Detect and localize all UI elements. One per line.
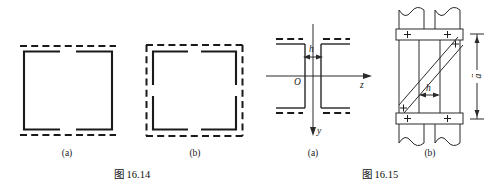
rivet-bottom-right	[444, 115, 451, 122]
upper-member-left-break	[399, 7, 424, 29]
fig-16-14-drawing: z y O h	[0, 0, 503, 186]
h-dimension-label: h	[309, 44, 314, 54]
rivet-top-left	[404, 31, 411, 38]
fig-16-15-panel-b: h a a	[396, 7, 484, 145]
rivet-group	[400, 31, 459, 122]
corner-bracket-bottom-right-b	[201, 96, 236, 130]
lower-member-left-break	[399, 124, 424, 146]
caption-fig-16-15-a: (a)	[293, 148, 333, 158]
diagonal-brace-lower-edge	[404, 45, 463, 113]
caption-fig-16-14-b: (b)	[175, 148, 215, 158]
lower-member-right-break	[435, 124, 460, 146]
z-axis-label: z	[359, 80, 364, 90]
caption-fig-16-15-b: (b)	[410, 148, 450, 158]
origin-label: O	[294, 77, 301, 87]
a-dimension-label-text: a	[473, 73, 483, 78]
h-dimension-arrow-left	[303, 55, 310, 60]
fig-title-16-15: 图 16.15	[340, 166, 420, 181]
fig-16-14-panel-b	[146, 45, 243, 136]
corner-bracket-top-left-b	[153, 52, 188, 86]
fig-16-15-panel-a: z y O h	[266, 24, 372, 136]
rivet-brace-upper	[452, 41, 459, 48]
fig-b-h-dimension-label: h	[426, 83, 431, 93]
a-dimension-arrow-top	[475, 36, 480, 43]
corner-bracket-top-right-b	[201, 52, 236, 86]
fig-title-16-14: 图 16.14	[92, 166, 172, 181]
caption-fig-16-14-a: (a)	[47, 148, 87, 158]
z-axis-arrowhead	[363, 73, 372, 79]
h-dimension-arrow-right	[316, 55, 323, 60]
figure-sheet: z y O h	[0, 0, 503, 186]
rivet-top-right	[444, 31, 451, 38]
y-axis-label: y	[316, 126, 322, 136]
corner-bracket-bottom-left-b	[153, 96, 188, 130]
rivet-bottom-left	[404, 115, 411, 122]
fig-b-h-arrow-right	[433, 93, 440, 98]
fig-b-h-arrow-left	[419, 93, 426, 98]
upper-member-right-break	[435, 7, 460, 29]
fig-16-14-panel-a	[20, 46, 116, 135]
a-dimension-arrow-bottom	[475, 110, 480, 117]
y-axis-arrowhead	[310, 127, 316, 136]
